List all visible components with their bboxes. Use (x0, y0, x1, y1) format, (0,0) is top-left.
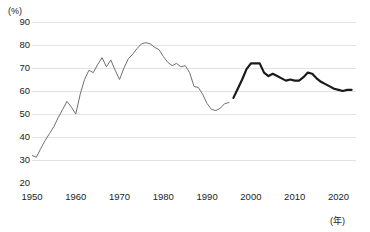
y-tick-label: 60 (4, 86, 30, 96)
chart-svg (32, 22, 356, 183)
x-axis-unit-label: (年) (330, 214, 345, 227)
x-tick-label: 1950 (12, 192, 52, 202)
x-tick-label: 1970 (100, 192, 140, 202)
y-tick-label: 50 (4, 109, 30, 119)
y-tick-label: 90 (4, 17, 30, 27)
x-tick-label: 1960 (56, 192, 96, 202)
y-tick-label: 40 (4, 132, 30, 142)
series-line-old-series (32, 43, 229, 158)
x-tick-label: 1990 (187, 192, 227, 202)
y-tick-label: 70 (4, 63, 30, 73)
x-tick-label: 2020 (318, 192, 358, 202)
x-tick-label: 2010 (275, 192, 315, 202)
y-tick-label: 30 (4, 155, 30, 165)
plot-area (32, 22, 356, 183)
series-line-new-series (233, 63, 351, 98)
y-tick-label: 80 (4, 40, 30, 50)
y-tick-label: 20 (4, 178, 30, 188)
x-axis-tick-labels: 19501960197019801990200020102020 (0, 192, 370, 206)
x-tick-label: 1980 (143, 192, 183, 202)
x-tick-label: 2000 (231, 192, 271, 202)
gridlines (32, 22, 356, 160)
chart-container: (%) (年) 9080706050403020 195019601970198… (0, 0, 370, 232)
data-series-group (32, 43, 352, 158)
